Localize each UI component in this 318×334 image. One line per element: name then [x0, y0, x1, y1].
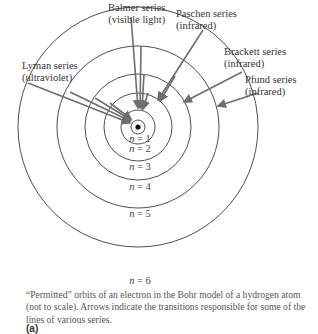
balmer-arrow-1 — [131, 17, 138, 108]
nucleus — [135, 124, 140, 129]
lyman-series-label: Lyman series (ultraviolet) — [22, 60, 78, 84]
paschen-arrow-1 — [158, 30, 203, 100]
balmer-series-label: Balmer series (visible light) — [108, 2, 165, 26]
bohr-model-diagram: Balmer series (visible light) Paschen se… — [0, 0, 318, 290]
orbit-diagram-svg — [0, 0, 318, 290]
lyman-arrow-2 — [70, 92, 130, 121]
orbit-label-n4: n = 4 — [129, 181, 151, 192]
lyman-arrow-1 — [28, 83, 130, 123]
paschen-series-label: Paschen series (infrared) — [176, 8, 237, 32]
balmer-arrow-3 — [142, 74, 144, 109]
figure-part-label: (a) — [26, 323, 38, 334]
brackett-series-label: Brackett series (infrared) — [224, 46, 286, 70]
figure-caption: “Permitted” orbits of an electron in the… — [26, 289, 316, 326]
orbit-label-n5: n = 5 — [129, 208, 151, 219]
orbit-label-n6: n = 6 — [129, 275, 151, 286]
balmer-arrow-2 — [140, 46, 141, 108]
orbit-label-n3: n = 3 — [129, 161, 151, 172]
orbit-label-n2: n = 2 — [129, 143, 151, 154]
balmer-arrow-4 — [143, 93, 148, 109]
pfund-series-label: Pfund series (infrared) — [245, 74, 297, 98]
